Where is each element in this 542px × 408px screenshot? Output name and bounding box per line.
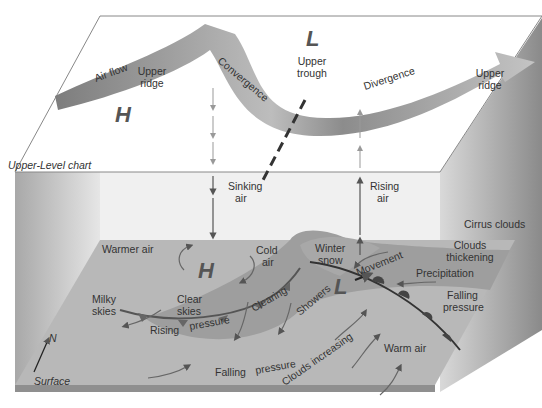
rising-air-line2: air bbox=[377, 192, 389, 204]
sinking-air-line1: Sinking bbox=[228, 180, 263, 192]
rising-air-line1: Rising bbox=[370, 180, 399, 192]
weather-diagram: Upper-Level chart Air flow Upper ridge C… bbox=[0, 0, 542, 408]
falling-pressure-right-line2: pressure bbox=[443, 301, 484, 313]
cold-air-line2: air bbox=[262, 256, 274, 268]
sinking-air-line2: air bbox=[235, 192, 247, 204]
upper-low-symbol: L bbox=[306, 26, 319, 51]
clear-skies-line2: skies bbox=[177, 305, 201, 317]
clear-skies-line1: Clear bbox=[177, 293, 203, 305]
upper-ridge-right-line1: Upper bbox=[476, 67, 505, 79]
precipitation-label: Precipitation bbox=[416, 267, 474, 279]
surface-label: Surface bbox=[34, 375, 70, 387]
milky-skies-line2: skies bbox=[92, 305, 116, 317]
upper-high-symbol: H bbox=[115, 102, 132, 127]
upper-ridge-left-line1: Upper bbox=[138, 65, 167, 77]
warmer-air-label: Warmer air bbox=[102, 243, 154, 255]
diagram-canvas: Upper-Level chart Air flow Upper ridge C… bbox=[0, 0, 542, 408]
winter-snow-line2: snow bbox=[318, 254, 343, 266]
warm-air-label: Warm air bbox=[384, 342, 427, 354]
north-label: N bbox=[49, 332, 57, 344]
milky-skies-line1: Milky bbox=[92, 293, 117, 305]
surface-low-symbol: L bbox=[334, 274, 347, 299]
upper-ridge-right-line2: ridge bbox=[478, 79, 502, 91]
rising-label: Rising bbox=[150, 324, 179, 336]
upper-trough-line1: Upper bbox=[298, 55, 327, 67]
falling-pressure-right-line1: Falling bbox=[447, 289, 478, 301]
upper-level-chart-label: Upper-Level chart bbox=[8, 159, 92, 171]
upper-trough-line2: trough bbox=[297, 67, 327, 79]
clouds-thickening-line2: thickening bbox=[446, 251, 493, 263]
cirrus-clouds-label: Cirrus clouds bbox=[464, 218, 525, 230]
clouds-thickening-line1: Clouds bbox=[454, 239, 487, 251]
cold-air-line1: Cold bbox=[256, 244, 278, 256]
upper-ridge-left-line2: ridge bbox=[140, 77, 164, 89]
winter-snow-line1: Winter bbox=[315, 242, 346, 254]
falling-label-bottom: Falling bbox=[215, 366, 246, 378]
surface-high-symbol: H bbox=[198, 258, 215, 283]
